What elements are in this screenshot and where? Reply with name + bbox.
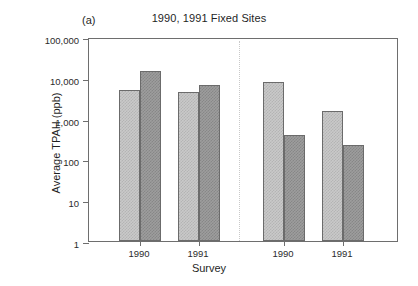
x-tick [343, 241, 344, 246]
y-tick-label: 1 [74, 239, 79, 250]
bar [263, 82, 284, 241]
bar [178, 92, 199, 241]
bar [199, 85, 220, 241]
figure: (a) 1990, 1991 Fixed Sites Average TPAH … [0, 0, 418, 286]
y-tick: 100 [83, 161, 89, 162]
bar [284, 135, 305, 241]
x-tick [199, 241, 200, 246]
y-tick-label: 100 [63, 157, 79, 168]
bar [119, 90, 140, 241]
y-tick-label: 1,000 [55, 116, 79, 127]
y-tick: 10 [83, 202, 89, 203]
y-tick-label: 100,000 [45, 35, 79, 46]
y-tick: 1,000 [83, 121, 89, 122]
plot-area: 1101001,00010,000100,000 [88, 38, 398, 242]
y-tick-label: 10 [68, 198, 79, 209]
y-tick: 100,000 [83, 39, 89, 40]
x-tick-label: 1990 [272, 248, 293, 259]
y-axis-title: Average TPAH (ppb) [50, 93, 62, 194]
x-tick [140, 241, 141, 246]
bar [140, 71, 161, 241]
x-tick-label: 1990 [128, 248, 149, 259]
bar [322, 111, 343, 241]
x-axis-title: Survey [0, 262, 418, 274]
bar [343, 145, 364, 241]
y-tick: 10,000 [83, 80, 89, 81]
x-tick-label: 1991 [187, 248, 208, 259]
x-tick [284, 241, 285, 246]
chart-title: 1990, 1991 Fixed Sites [0, 12, 418, 24]
y-tick: 1 [83, 243, 89, 244]
x-tick-label: 1991 [331, 248, 352, 259]
y-tick-label: 10,000 [50, 75, 79, 86]
group-divider [239, 41, 240, 241]
